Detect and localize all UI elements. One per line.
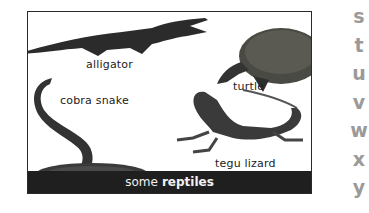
- cobra-snake-image: [30, 76, 155, 186]
- reptiles-figure: alligator turtle cobra snake tegu lizard…: [27, 11, 312, 194]
- index-letter: t: [354, 31, 363, 60]
- alphabet-index: s t u v w x y: [350, 2, 368, 202]
- caption-emphasis: reptiles: [162, 175, 214, 189]
- index-letter: s: [353, 2, 364, 31]
- index-letter: v: [353, 88, 365, 117]
- caption-bar: some reptiles: [28, 171, 311, 193]
- caption-prefix: some: [125, 175, 158, 189]
- cobra-snake-label: cobra snake: [60, 94, 129, 107]
- alligator-label: alligator: [86, 58, 133, 71]
- tegu-lizard-label: tegu lizard: [215, 157, 276, 170]
- alligator-image: [27, 14, 212, 64]
- index-letter: w: [350, 116, 368, 145]
- index-letter: y: [353, 173, 365, 202]
- index-letter: u: [352, 59, 366, 88]
- index-letter: x: [353, 145, 365, 174]
